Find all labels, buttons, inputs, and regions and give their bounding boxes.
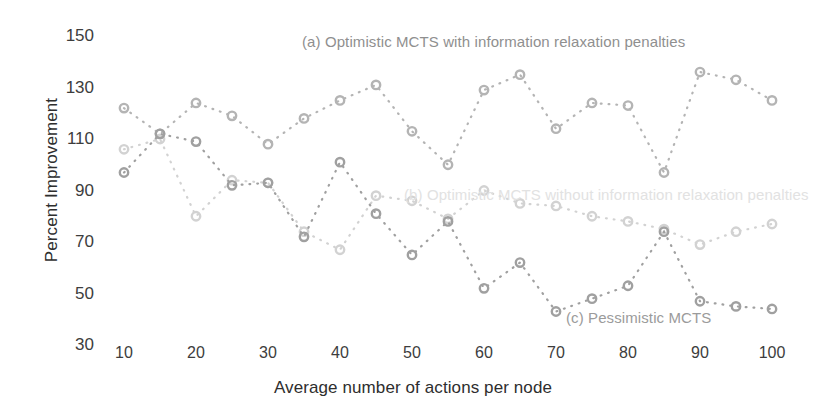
data-point — [264, 140, 272, 148]
data-point — [480, 284, 488, 292]
data-point — [408, 251, 416, 259]
data-point — [768, 96, 776, 104]
data-point — [336, 96, 344, 104]
x-tick-20: 20 — [166, 344, 226, 362]
chart-figure: Percent Improvement 15013011090705030 (a… — [0, 0, 826, 418]
series-a — [120, 68, 776, 177]
x-tick-50: 50 — [382, 344, 442, 362]
data-point — [624, 282, 632, 290]
x-tick-100: 100 — [742, 344, 802, 362]
x-tick-70: 70 — [526, 344, 586, 362]
series-annotation-c: (c) Pessimistic MCTS — [566, 309, 711, 326]
x-tick-10: 10 — [94, 344, 154, 362]
data-point — [192, 212, 200, 220]
series-line — [124, 72, 772, 172]
data-point — [372, 209, 380, 217]
x-tick-40: 40 — [310, 344, 370, 362]
data-point — [588, 294, 596, 302]
x-tick-80: 80 — [598, 344, 658, 362]
data-point — [336, 246, 344, 254]
x-tick-90: 90 — [670, 344, 730, 362]
data-point — [732, 76, 740, 84]
x-axis-title: Average number of actions per node — [0, 378, 826, 398]
data-point — [372, 81, 380, 89]
series-annotation-b: (b) Optimistic MCTS without information … — [404, 186, 808, 203]
x-tick-30: 30 — [238, 344, 298, 362]
data-point — [336, 158, 344, 166]
data-point — [624, 217, 632, 225]
x-axis-tick-labels: 102030405060708090100 — [0, 344, 826, 370]
data-point — [480, 86, 488, 94]
series-annotation-a: (a) Optimistic MCTS with information rel… — [302, 33, 685, 50]
x-tick-60: 60 — [454, 344, 514, 362]
data-point — [228, 112, 236, 120]
